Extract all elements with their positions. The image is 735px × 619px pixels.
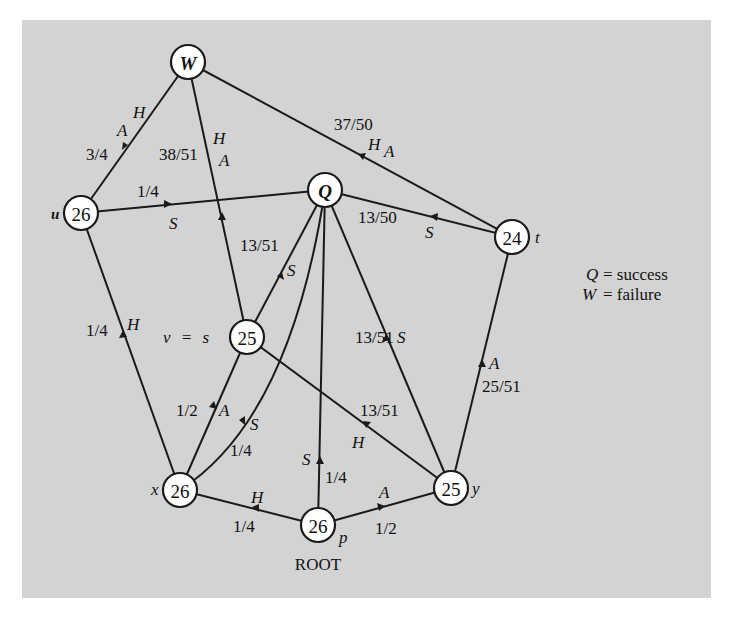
label-xu-H: H (126, 315, 141, 334)
edge-x-u (81, 213, 180, 490)
label-xu-prob: 1/4 (86, 321, 108, 340)
node-t-name: t (535, 228, 541, 247)
node-s: 25 v = s (163, 320, 264, 354)
node-p-name: p (338, 528, 348, 547)
label-pQ-prob: 1/4 (325, 468, 347, 487)
node-y: 25 y (434, 471, 480, 505)
node-p: 26 p (301, 508, 348, 547)
edges (81, 62, 512, 525)
label-tQ-prob: 13/50 (358, 208, 397, 227)
label-sW-H: H (212, 129, 227, 148)
label-pQ-S: S (302, 450, 311, 469)
label-sW-prob: 38/51 (159, 145, 198, 164)
node-Q: Q (308, 173, 342, 207)
label-uW-H: H (132, 103, 147, 122)
node-u-value: 26 (72, 204, 91, 225)
legend-q-meaning: = success (603, 265, 668, 284)
node-y-name: y (470, 479, 480, 498)
edge-t-W (188, 62, 512, 237)
node-W: W (171, 45, 205, 79)
legend-q-symbol: Q (586, 265, 598, 284)
label-sW-A: A (218, 151, 230, 170)
node-Q-label: Q (318, 181, 332, 202)
arrow-s-W-icon (218, 212, 226, 220)
label-tW-H: H (367, 135, 382, 154)
node-x-value: 26 (171, 481, 190, 502)
label-yt-A: A (488, 354, 500, 373)
label-xs-prob: 1/2 (176, 401, 198, 420)
node-u-name: u (51, 206, 59, 222)
label-tQ-S: S (425, 223, 434, 242)
node-t-value: 24 (503, 228, 523, 249)
label-xQ-prob: 1/4 (230, 441, 252, 460)
arrow-u-Q-icon (164, 200, 172, 208)
root-label: ROOT (295, 555, 342, 574)
node-p-value: 26 (309, 516, 328, 537)
label-py-prob: 1/2 (375, 519, 397, 538)
label-py-A: A (378, 483, 390, 502)
label-uQ-prob: 1/4 (137, 182, 159, 201)
arrow-y-t-icon (478, 359, 486, 367)
legend-w-meaning: = failure (603, 285, 661, 304)
label-ys-prob: 13/51 (360, 401, 399, 420)
node-y-value: 25 (442, 479, 461, 500)
state-graph: 3/4 A H 38/51 H A 37/50 H A 1/4 S 13/50 … (0, 0, 735, 619)
arrow-x-u-icon (119, 330, 127, 338)
label-xQ-S: S (250, 415, 259, 434)
arrow-x-s-icon (209, 401, 217, 409)
edge-p-Q (318, 190, 325, 525)
edge-s-Q (247, 190, 325, 337)
label-tW-prob: 37/50 (334, 115, 373, 134)
label-ys-H: H (351, 433, 366, 452)
node-W-label: W (180, 53, 198, 74)
arrow-x-Q-icon (239, 416, 245, 425)
node-x-name: x (150, 480, 159, 499)
label-px-prob: 1/4 (233, 517, 255, 536)
label-uW-A: A (116, 121, 128, 140)
arrow-p-Q-icon (316, 456, 324, 464)
node-x: 26 x (150, 473, 197, 507)
edge-u-Q (81, 190, 325, 213)
node-t: 24 t (495, 220, 541, 254)
label-sQ-S: S (287, 261, 296, 280)
edge-y-s (247, 337, 451, 488)
label-uW-prob: 3/4 (86, 145, 108, 164)
legend-w-symbol: W (582, 285, 598, 304)
node-s-value: 25 (238, 328, 257, 349)
edge-u-W (81, 62, 188, 213)
label-yQ-prob: 13/51 (355, 328, 394, 347)
label-yQ-S: S (397, 328, 406, 347)
node-s-name: v = s (163, 328, 210, 347)
legend: Q = success W = failure (582, 265, 668, 304)
label-xs-A: A (218, 401, 230, 420)
label-sQ-prob: 13/51 (240, 236, 279, 255)
node-u: 26 u (51, 196, 98, 230)
label-px-H: H (250, 488, 265, 507)
label-uQ-S: S (169, 214, 178, 233)
label-tW-A: A (383, 142, 395, 161)
arrow-p-y-icon (377, 503, 385, 511)
label-yt-prob: 25/51 (482, 377, 521, 396)
edge-t-Q (325, 190, 512, 237)
